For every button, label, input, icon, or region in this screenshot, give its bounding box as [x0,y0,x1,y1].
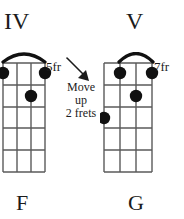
barre-arc-right [119,54,153,63]
finger-dots-right [100,67,158,124]
fret-position-label-right: 7fr [154,60,169,73]
fret-lines-left [3,63,45,172]
finger-dot [0,67,9,79]
string-lines-right [104,63,152,172]
string-lines-left [3,63,45,172]
chord-name-left: F [16,192,28,214]
finger-dot [130,90,142,102]
roman-numeral-left: IV [4,9,29,33]
fret-position-label-left: 5fr [46,60,61,73]
chord-diagram-figure: IV V [0,0,184,219]
barre-arc-left [3,54,45,62]
finger-dot [114,67,126,79]
chord-name-right: G [128,192,144,214]
fret-lines-right [104,63,152,172]
roman-numeral-right: V [126,9,143,33]
instruction-text: Move up 2 frets [58,81,104,120]
instruction-line-3: 2 frets [58,107,104,120]
finger-dot [25,90,37,102]
